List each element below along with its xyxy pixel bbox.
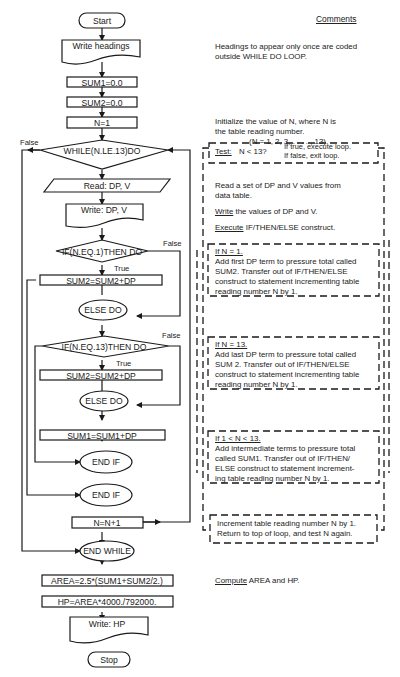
init-n-line: Initialize the value of N, where N is — [215, 117, 336, 127]
case1-line: SUM2. Transfer out of IF/THEN/ELSE — [215, 267, 359, 277]
case3-note: If 1 < N < 13. Add intermediate terms to… — [215, 434, 355, 484]
write-note-rest: the values of DP and V. — [233, 207, 317, 216]
sum1-add-label: SUM1=SUM1+DP — [67, 431, 137, 441]
compute-word: Compute — [215, 576, 247, 585]
n-increment-label: N=N+1 — [93, 518, 120, 528]
case3-line: ing table reading number N by 1. — [215, 474, 355, 484]
write-hp-label: Write: HP — [89, 619, 126, 629]
read-note-line: Read a set of DP and V values from — [215, 181, 341, 191]
case2-line: construct to statement incrementing tabl… — [215, 370, 359, 380]
test-outcomes: If true, execute loop. If false, exit lo… — [284, 143, 351, 160]
if2-true-exit-path — [35, 346, 80, 462]
if2-label: IF(N.EQ.13)THEN DO — [62, 342, 147, 352]
compute-note: Compute AREA and HP. — [215, 576, 300, 586]
case3-line: ELSE construct to statement increment- — [215, 464, 355, 474]
case2-note: If N = 13. Add last DP term to pressure … — [215, 340, 359, 390]
sum2-add-2-label: SUM2=SUM2+DP — [66, 371, 136, 381]
read-label: Read: DP, V — [84, 181, 131, 191]
comments-heading: Comments — [316, 14, 357, 24]
case1-line: Add first DP term to pressure total call… — [215, 257, 359, 267]
increment-note: Increment table reading number N by 1. R… — [217, 519, 356, 539]
init-n-line: the table reading number. — [215, 127, 336, 137]
else2-label: ELSE DO — [85, 396, 123, 406]
execute-note: Execute IF/THEN/ELSE construct. — [215, 223, 335, 233]
endif-outer-label: END IF — [92, 490, 120, 500]
write-note: Write the values of DP and V. — [215, 207, 318, 217]
write-headings-label: Write headings — [72, 41, 129, 51]
read-note: Read a set of DP and V values from data … — [215, 181, 341, 201]
headings-note-line: outside WHILE DO LOOP. — [215, 52, 357, 62]
test-label: Test: — [215, 147, 232, 156]
case3-title: If 1 < N < 13. — [215, 434, 355, 444]
else1-label: ELSE DO — [84, 305, 122, 315]
sum1-init-label: SUM1=0.0 — [82, 78, 123, 88]
start-label: Start — [93, 16, 112, 26]
case3-line: Add intermediate terms to pressure total — [215, 444, 355, 454]
case2-title: If N = 13. — [215, 340, 359, 350]
if1-label: IF(N.EQ.1)THEN DO — [62, 247, 143, 257]
case2-line: Add last DP term to pressure total calle… — [215, 350, 359, 360]
case1-note: If N = 1. Add first DP term to pressure … — [215, 247, 359, 297]
n-init-label: N=1 — [94, 118, 110, 128]
flowchart-canvas: Start Write headings SUM1=0.0 SUM2=0.0 N… — [0, 0, 400, 677]
while-false-label: False — [20, 138, 39, 147]
end-while-label: END WHILE — [83, 546, 131, 556]
write-dpv-label: Write: DP, V — [81, 205, 127, 215]
test-note: Test: N < 13? — [215, 147, 267, 157]
stop-label: Stop — [100, 655, 118, 665]
endif-inner-label: END IF — [92, 457, 120, 467]
if1-false-label: False — [163, 239, 182, 248]
headings-note: Headings to appear only once are coded o… — [215, 42, 357, 62]
compute-note-rest: AREA and HP. — [247, 576, 300, 585]
case3-line: called SUM1. Transfer out of IF/THEN/ — [215, 454, 355, 464]
case2-line: reading number N by 1. — [215, 380, 359, 390]
hp-label: HP=AREA*4000./792000. — [58, 597, 157, 607]
case1-line: reading number N by 1. — [215, 287, 359, 297]
case1-line: construct to statement incrementing tabl… — [215, 277, 359, 287]
increment-line: Return to top of loop, and test N again. — [217, 529, 356, 539]
execute-word: Execute — [215, 223, 244, 232]
if2-true-label: True — [116, 359, 131, 368]
case1-title: If N = 1. — [215, 247, 359, 257]
increment-line: Increment table reading number N by 1. — [217, 519, 356, 529]
case2-line: SUM 2. Transfer out of IF/THEN/ELSE — [215, 360, 359, 370]
sum2-add-1-label: SUM2=SUM2+DP — [66, 276, 136, 286]
read-note-line: data table. — [215, 191, 341, 201]
area-label: AREA=2.5*(SUM1+SUM2/2.) — [51, 576, 163, 586]
sum2-init-label: SUM2=0.0 — [82, 98, 123, 108]
if2-false-label: False — [162, 331, 181, 340]
if1-true-label: True — [114, 264, 129, 273]
headings-note-line: Headings to appear only once are coded — [215, 42, 357, 52]
write-word: Write — [215, 207, 233, 216]
while-label: WHILE(N.LE.13)DO — [64, 146, 141, 156]
test-expression: N < 13? — [239, 147, 267, 156]
execute-note-rest: IF/THEN/ELSE construct. — [244, 223, 336, 232]
test-false-text: If false, exit loop. — [284, 152, 351, 161]
